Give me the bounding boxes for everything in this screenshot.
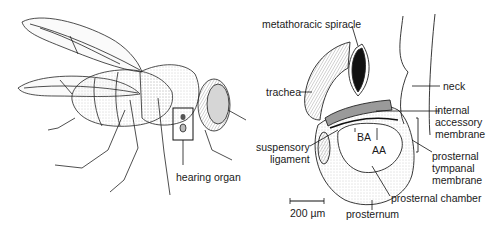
scale-bar (290, 198, 324, 204)
label-neck: neck (443, 80, 465, 92)
label-prosternal-tympanal-membrane: prosternal tympanal membrane (432, 150, 482, 186)
label-trachea: trachea (266, 86, 301, 98)
label-hearing-organ: hearing organ (176, 171, 241, 183)
label-ba: BA (357, 131, 371, 143)
label-aa: AA (372, 144, 386, 156)
fly-thorax (140, 65, 199, 125)
label-prosternum: prosternum (346, 208, 399, 220)
hearing-organ-detail (305, 14, 435, 205)
label-prosternal-chamber: prosternal chamber (391, 192, 481, 204)
metathoracic-spiracle-shape (352, 48, 365, 92)
label-scale-bar: 200 µm (290, 207, 325, 219)
fly-illustration (18, 18, 246, 195)
label-metathoracic-spiracle: metathoracic spiracle (262, 18, 361, 30)
trachea-shape (305, 42, 350, 120)
label-internal-accessory-membrane: internal accessory membrane (435, 104, 485, 140)
label-suspensory-ligament: suspensory ligament (256, 141, 310, 165)
